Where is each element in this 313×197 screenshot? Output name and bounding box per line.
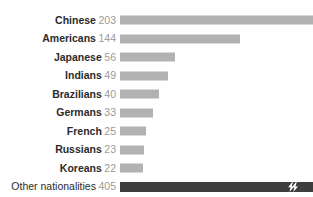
category-value: 25 [104,125,116,137]
bar-label-cell: Brazilians40 [0,89,120,100]
category-label: Koreans [60,162,102,174]
bar-label-cell: Germans33 [0,107,120,118]
bar-label-cell: Indians49 [0,70,120,81]
bar-row: Russians23 [0,141,313,160]
bar-row: Japanese56 [0,48,313,67]
category-label: Indians [65,69,102,81]
bar-label-cell: Russians23 [0,144,120,155]
category-value: 23 [104,143,116,155]
bar [120,71,168,80]
category-label: Germans [56,106,102,118]
horizontal-bar-chart: Chinese203Americans144Japanese56Indians4… [0,0,313,196]
bar-row: Chinese203 [0,11,313,30]
bar [120,182,313,192]
category-label: Americans [42,32,96,44]
bar-track [120,104,313,123]
bar [120,145,144,154]
category-value: 33 [104,106,116,118]
bar-track [120,48,313,67]
bar-label-cell: Koreans22 [0,163,120,174]
category-value: 203 [98,14,116,26]
bar-row: Other nationalities405 [0,178,313,197]
bar-label-cell: Other nationalities405 [0,181,120,192]
bar-row: Brazilians40 [0,85,313,104]
bar-label-cell: Japanese56 [0,52,120,63]
bar-track [120,159,313,178]
bar-row: Indians49 [0,67,313,86]
bar [120,53,175,62]
bar [120,16,313,25]
category-label: Japanese [54,51,102,63]
category-label: French [67,125,102,137]
category-label: Other nationalities [11,180,96,192]
bar [120,164,143,173]
category-value: 56 [104,51,116,63]
bar-row: French25 [0,122,313,141]
bar [120,127,146,136]
category-label: Russians [55,143,102,155]
category-value: 40 [104,88,116,100]
category-label: Chinese [55,14,96,26]
bar [120,34,240,43]
bar-track [120,178,313,197]
bar-row: Americans144 [0,30,313,49]
bar-track [120,85,313,104]
bar-track [120,122,313,141]
category-value: 22 [104,162,116,174]
axis-break-lightning-icon [287,182,299,192]
bar-track [120,30,313,49]
category-label: Brazilians [52,88,102,100]
bar-track [120,11,313,30]
bar-track [120,141,313,160]
bar-label-cell: Americans144 [0,33,120,44]
bar-track [120,67,313,86]
bar [120,108,153,117]
bar-label-cell: French25 [0,126,120,137]
bar [120,90,159,99]
category-value: 405 [98,180,116,192]
category-value: 49 [104,69,116,81]
bar-row: Germans33 [0,104,313,123]
bar-label-cell: Chinese203 [0,15,120,26]
category-value: 144 [98,32,116,44]
bar-row: Koreans22 [0,159,313,178]
